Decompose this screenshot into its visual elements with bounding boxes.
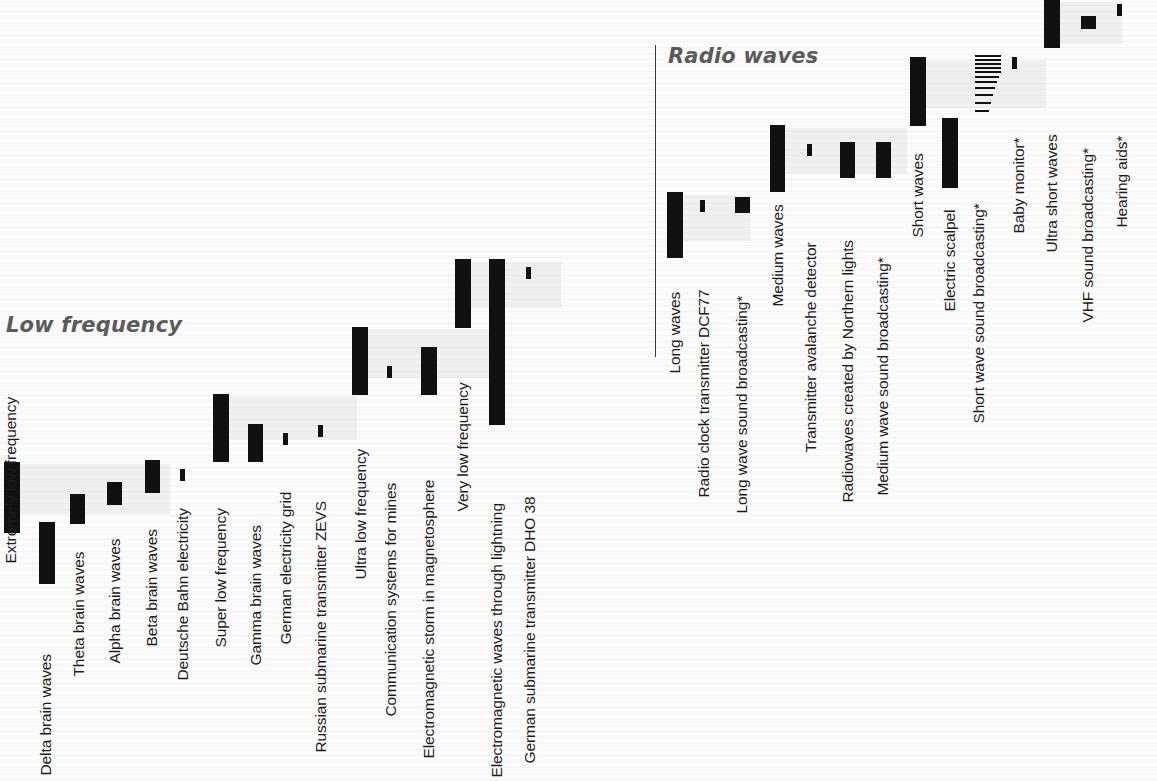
bar-label: German electricity grid bbox=[278, 492, 294, 645]
frequency-tick bbox=[283, 433, 288, 445]
broadcast-band-tick bbox=[975, 110, 989, 112]
broadcast-band-tick bbox=[975, 87, 995, 89]
frequency-band-bar bbox=[667, 192, 683, 258]
frequency-band-bar bbox=[352, 327, 368, 395]
bar-label: Long waves bbox=[667, 292, 683, 374]
section-title-low-frequency: Low frequency bbox=[6, 313, 182, 337]
bar-label: Medium waves bbox=[770, 204, 786, 306]
bar-label: Short waves bbox=[910, 153, 926, 237]
bar-label: Medium wave sound broadcasting* bbox=[875, 257, 891, 495]
frequency-band-bar bbox=[107, 482, 122, 505]
bar-label: Extremely low frequency bbox=[3, 397, 19, 564]
frequency-band-bar bbox=[489, 259, 505, 425]
bar-label: Radio clock transmitter DCF77 bbox=[696, 289, 712, 497]
frequency-tick bbox=[700, 200, 705, 212]
broadcast-band-tick bbox=[975, 76, 999, 78]
broadcast-band-tick bbox=[975, 63, 1001, 65]
broadcast-band-tick bbox=[975, 67, 1001, 69]
frequency-band-bar bbox=[840, 142, 855, 178]
bar-label: Super low frequency bbox=[213, 508, 229, 647]
band-halo bbox=[471, 262, 561, 308]
bar-label: Communication systems for mines bbox=[383, 483, 399, 717]
bar-label: Transmitter avalanche detector bbox=[803, 242, 819, 452]
frequency-band-bar bbox=[942, 118, 958, 188]
bar-label: Hearing aids* bbox=[1114, 136, 1130, 228]
bar-label: Electromagnetic waves through lightning bbox=[489, 503, 505, 777]
broadcast-band-tick bbox=[975, 94, 993, 96]
broadcast-band-tick bbox=[975, 59, 1001, 61]
broadcast-band-tick bbox=[975, 55, 1001, 57]
frequency-band-bar bbox=[248, 424, 263, 462]
frequency-band-bar bbox=[910, 57, 926, 126]
bar-label: Beta brain waves bbox=[144, 529, 160, 646]
frequency-tick bbox=[1012, 57, 1017, 69]
frequency-tick bbox=[1117, 4, 1122, 16]
bar-label: Radiowaves created by Northern lights bbox=[840, 240, 856, 503]
bar-label: Long wave sound broadcasting* bbox=[734, 296, 750, 514]
bar-label: Electromagnetic storm in magnetosphere bbox=[421, 480, 437, 759]
bar-label: Baby monitor* bbox=[1011, 137, 1027, 233]
frequency-tick bbox=[180, 469, 185, 481]
frequency-band-bar bbox=[735, 197, 750, 213]
bar-label: Ultra short waves bbox=[1044, 134, 1060, 252]
broadcast-band-tick bbox=[975, 102, 991, 104]
bar-label: Electric scalpel bbox=[942, 210, 958, 312]
bar-label: German submarine transmitter DHO 38 bbox=[522, 497, 538, 764]
bar-label: Very low frequency bbox=[455, 382, 471, 511]
bar-label: Delta brain waves bbox=[38, 654, 54, 776]
bar-label: Russian submarine transmitter ZEVS bbox=[313, 501, 329, 753]
spectrum-figure: Low frequency Radio waves Extremely low … bbox=[0, 0, 1157, 781]
frequency-tick bbox=[807, 144, 812, 156]
broadcast-band-tick bbox=[975, 81, 997, 83]
section-title-radio-waves: Radio waves bbox=[668, 44, 819, 68]
bar-label: Alpha brain waves bbox=[107, 539, 123, 664]
bar-label: Ultra low frequency bbox=[353, 449, 369, 580]
broadcast-band-tick bbox=[975, 71, 1001, 73]
frequency-band-bar bbox=[455, 259, 471, 328]
frequency-band-bar bbox=[421, 347, 437, 395]
bar-label: Short wave sound broadcasting* bbox=[971, 203, 987, 423]
radio-waves-axis-rule bbox=[655, 45, 656, 357]
frequency-tick bbox=[387, 366, 392, 378]
frequency-tick bbox=[318, 425, 323, 437]
bar-label: Theta brain waves bbox=[71, 552, 87, 677]
frequency-band-bar bbox=[39, 522, 55, 584]
frequency-band-bar bbox=[1044, 0, 1060, 48]
frequency-band-bar bbox=[770, 125, 785, 192]
frequency-band-bar bbox=[145, 460, 160, 493]
bar-label: VHF sound broadcasting* bbox=[1080, 148, 1096, 322]
frequency-band-bar bbox=[1081, 16, 1096, 29]
frequency-band-bar bbox=[876, 142, 891, 178]
bar-label: Deutsche Bahn electricity bbox=[175, 508, 191, 680]
frequency-tick bbox=[526, 267, 531, 279]
frequency-band-bar bbox=[70, 494, 85, 524]
bar-label: Gamma brain waves bbox=[248, 525, 264, 665]
frequency-band-bar bbox=[213, 394, 229, 462]
